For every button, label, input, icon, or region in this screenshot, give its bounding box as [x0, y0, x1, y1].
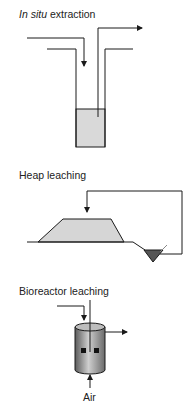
impeller-left — [81, 348, 86, 353]
ground-line — [27, 242, 145, 250]
leaching-diagram — [0, 0, 187, 404]
impeller-right — [94, 348, 99, 353]
feed-arrow — [57, 306, 84, 320]
heap-leaching-diagram — [27, 191, 182, 262]
well-liquid — [76, 109, 105, 147]
injection-arrow — [27, 38, 84, 66]
well-left-wall — [47, 49, 76, 147]
well-right-wall — [105, 49, 133, 147]
heap-pile — [38, 219, 124, 242]
bioreactor-diagram — [57, 300, 127, 388]
in-situ-diagram — [27, 28, 142, 147]
pond-slope — [160, 245, 167, 252]
